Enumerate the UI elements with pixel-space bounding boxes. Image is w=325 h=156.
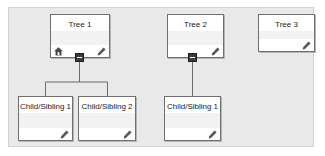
node-title: Child/Sibling 2 [79,97,135,112]
node-title: Tree 3 [259,15,314,30]
tree-node-tree2[interactable]: Tree 2 [167,14,224,58]
minus-icon [190,57,195,58]
node-title: Child/Sibling 1 [19,97,72,112]
node-body [19,112,72,128]
edit-icon[interactable] [97,47,106,56]
minus-icon [77,57,82,58]
node-footer [165,128,220,140]
node-footer [259,39,314,51]
tree-node-child1-2[interactable]: Child/Sibling 2 [78,96,136,141]
node-title: Tree 1 [51,15,109,30]
node-footer [19,128,72,140]
edit-icon[interactable] [208,130,217,139]
collapse-toggle-tree2[interactable] [188,53,197,62]
tree-node-tree1[interactable]: Tree 1 [50,14,110,58]
home-icon[interactable] [54,47,63,56]
node-body [165,112,220,128]
edit-icon[interactable] [60,130,69,139]
node-body [259,30,314,39]
edit-icon[interactable] [211,47,220,56]
node-body [51,30,109,45]
tree-node-child1-1[interactable]: Child/Sibling 1 [18,96,73,141]
collapse-toggle-tree1[interactable] [75,53,84,62]
tree-node-tree3[interactable]: Tree 3 [258,14,315,52]
node-title: Child/Sibling 1 [165,97,220,112]
node-body [79,112,135,128]
edit-icon[interactable] [123,130,132,139]
node-body [168,30,223,45]
node-title: Tree 2 [168,15,223,30]
diagram-canvas: Tree 1 Tree 2 [0,0,325,156]
edit-icon[interactable] [302,41,311,50]
tree-node-child2-1[interactable]: Child/Sibling 1 [164,96,221,141]
node-footer [79,128,135,140]
